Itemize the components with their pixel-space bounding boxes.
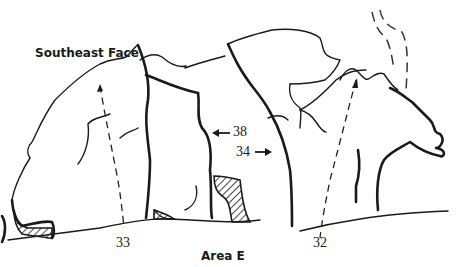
right-pillar-hatch [214,176,250,222]
face-title: Southeast Face [35,46,139,60]
route-33-arrowhead [97,84,103,92]
right-formation-profile [377,88,444,210]
route-32-line [320,80,356,238]
central-pillar-ledge [146,75,198,93]
central-pillar-left-edge [138,45,150,218]
route-label-33: 33 [116,235,130,251]
left-edge-shading [2,216,5,242]
central-pillar-top [140,55,225,68]
central-pillar-crack [198,93,212,218]
ground-line [8,211,448,240]
central-pillar-flake [120,128,138,138]
descent-gully-left [372,12,394,70]
upper-block-inner [290,84,326,132]
descent-gully-right [380,10,407,90]
upper-block-left-edge [228,44,270,112]
central-pillar-bulge [185,186,197,210]
route-38-arrowhead [212,129,219,137]
route-34-arrowhead [265,148,272,156]
gully-left-wall [270,112,292,226]
route-32-arrowhead [352,78,358,88]
route-label-38: 38 [233,124,247,140]
left-buttress-crack [78,114,110,164]
left-buttress-outline [12,45,138,200]
route-label-34: 34 [236,144,250,160]
route-label-32: 32 [313,235,327,251]
route-33-line [100,86,124,228]
area-caption: Area E [201,249,245,263]
right-formation-top [340,69,398,90]
right-formation-crack [356,150,359,202]
central-pillar-hatch [154,210,174,219]
upper-block-ledge [300,70,366,110]
